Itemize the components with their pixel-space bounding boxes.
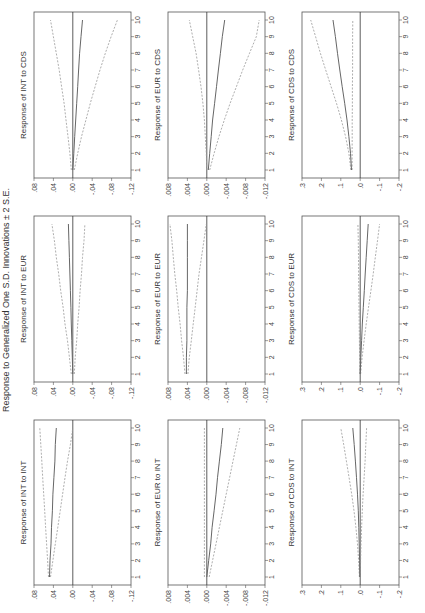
- plot-frame: [168, 216, 265, 382]
- period-tick-label: 7: [402, 68, 409, 72]
- lower-band-line: [360, 428, 366, 577]
- value-tick-label: .2: [318, 387, 325, 393]
- value-tick-label: -.1: [376, 183, 383, 191]
- panel-response-of-int-to-int: .08.04.00-.04-.08-.1212345678910Response…: [19, 420, 141, 602]
- panel-title: Response of INT to INT: [19, 460, 28, 544]
- upper-band-line: [358, 224, 360, 374]
- panel-response-of-int-to-cds: .08.04.00-.04-.08-.1212345678910Response…: [19, 12, 141, 195]
- period-tick-label: 5: [268, 305, 275, 309]
- period-tick-label: 2: [402, 558, 409, 562]
- response-line: [208, 20, 224, 170]
- value-tick-label: -.12: [128, 590, 135, 602]
- period-tick-label: 5: [134, 509, 141, 513]
- value-tick-label: .04: [50, 590, 57, 600]
- period-tick-label: 8: [402, 51, 409, 55]
- period-tick-label: 10: [402, 16, 409, 24]
- irf-figure: Response to Generalized One S.D. Innovat…: [0, 0, 425, 613]
- period-tick-label: 3: [134, 339, 141, 343]
- period-tick-label: 7: [268, 68, 275, 72]
- panel-response-of-eur-to-int: .008.004.000-.004-.008-.01212345678910Re…: [153, 420, 275, 606]
- period-tick-label: 5: [402, 305, 409, 309]
- period-tick-label: 9: [134, 443, 141, 447]
- lower-band-line: [210, 20, 260, 170]
- period-tick-label: 4: [134, 322, 141, 326]
- period-tick-label: 10: [268, 424, 275, 432]
- period-tick-label: 6: [134, 85, 141, 89]
- panel-title: Response of CDS to CDS: [287, 49, 296, 141]
- lower-band-line: [51, 428, 73, 577]
- period-tick-label: 1: [402, 575, 409, 579]
- value-tick-label: .0: [357, 183, 364, 189]
- value-tick-label: .08: [31, 590, 38, 600]
- value-tick-label: .008: [165, 590, 172, 604]
- panel-title: Response of INT to EUR: [19, 255, 28, 343]
- period-tick-label: 3: [268, 135, 275, 139]
- plot-frame: [168, 420, 265, 585]
- value-tick-label: .08: [31, 387, 38, 397]
- period-tick-label: 4: [402, 118, 409, 122]
- value-tick-label: -.012: [262, 590, 269, 606]
- period-tick-label: 2: [134, 355, 141, 359]
- panel-title: Response of CDS to INT: [287, 458, 296, 546]
- period-tick-label: 10: [134, 16, 141, 24]
- value-tick-label: .1: [337, 387, 344, 393]
- period-tick-label: 3: [402, 339, 409, 343]
- period-tick-label: 6: [134, 289, 141, 293]
- plot-frame: [168, 12, 265, 178]
- panel-grid: .08.04.00-.04-.08-.1212345678910Response…: [19, 12, 409, 606]
- period-tick-label: 2: [134, 558, 141, 562]
- figure-title: Response to Generalized One S.D. Innovat…: [1, 188, 11, 412]
- upper-band-line: [341, 428, 360, 577]
- period-tick-label: 6: [134, 492, 141, 496]
- panel-response-of-eur-to-eur: .008.004.000-.004-.008-.01212345678910Re…: [153, 216, 275, 403]
- period-tick-label: 2: [402, 151, 409, 155]
- value-tick-label: -.12: [128, 387, 135, 399]
- period-tick-label: 7: [402, 272, 409, 276]
- period-tick-label: 2: [134, 151, 141, 155]
- value-tick-label: -.012: [262, 387, 269, 403]
- period-tick-label: 5: [134, 101, 141, 105]
- period-tick-label: 3: [134, 542, 141, 546]
- plot-frame: [34, 420, 131, 585]
- period-tick-label: 1: [134, 168, 141, 172]
- lower-band-line: [74, 224, 85, 374]
- period-tick-label: 9: [134, 239, 141, 243]
- value-tick-label: -.2: [396, 590, 403, 598]
- period-tick-label: 8: [268, 51, 275, 55]
- period-tick-label: 4: [268, 118, 275, 122]
- period-tick-label: 9: [268, 443, 275, 447]
- period-tick-label: 8: [134, 459, 141, 463]
- panel-response-of-cds-to-cds: .3.2.1.0-.1-.212345678910Response of CDS…: [287, 12, 409, 191]
- panel-title: Response of EUR to EUR: [153, 253, 162, 345]
- value-tick-label: -.004: [223, 590, 230, 606]
- upper-band-line: [51, 20, 72, 170]
- upper-band-line: [170, 224, 185, 374]
- period-tick-label: 2: [268, 558, 275, 562]
- value-tick-label: .1: [337, 183, 344, 189]
- plot-frame: [302, 420, 399, 585]
- period-tick-label: 5: [268, 101, 275, 105]
- panel-response-of-cds-to-int: .3.2.1.0-.1-.212345678910Response of CDS…: [287, 420, 409, 598]
- period-tick-label: 8: [268, 459, 275, 463]
- panel-response-of-int-to-eur: .08.04.00-.04-.08-.1212345678910Response…: [19, 216, 141, 399]
- value-tick-label: .3: [299, 183, 306, 189]
- period-tick-label: 2: [268, 151, 275, 155]
- period-tick-label: 8: [268, 255, 275, 259]
- period-tick-label: 10: [402, 220, 409, 228]
- value-tick-label: -.08: [108, 387, 115, 399]
- value-tick-label: .04: [50, 183, 57, 193]
- value-tick-label: -.008: [242, 590, 249, 606]
- period-tick-label: 10: [268, 220, 275, 228]
- period-tick-label: 4: [402, 322, 409, 326]
- value-tick-label: -.008: [242, 387, 249, 403]
- value-tick-label: -.2: [396, 387, 403, 395]
- period-tick-label: 4: [402, 525, 409, 529]
- value-tick-label: -.08: [108, 590, 115, 602]
- panel-title: Response of EUR to CDS: [153, 49, 162, 141]
- period-tick-label: 4: [134, 525, 141, 529]
- lower-band-line: [209, 428, 240, 577]
- response-line: [207, 428, 223, 577]
- value-tick-label: .08: [31, 183, 38, 193]
- period-tick-label: 9: [134, 35, 141, 39]
- period-tick-label: 9: [402, 239, 409, 243]
